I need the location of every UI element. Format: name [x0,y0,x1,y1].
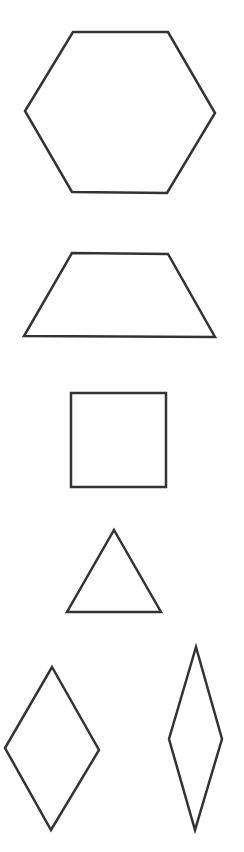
triangle-shape [67,530,161,612]
thin-rhombus-shape [169,647,222,830]
hexagon-shape [25,32,215,193]
wide-rhombus-shape [5,667,99,830]
pattern-blocks-diagram [0,0,244,852]
trapezoid-shape [24,253,215,337]
square-shape [71,393,166,487]
